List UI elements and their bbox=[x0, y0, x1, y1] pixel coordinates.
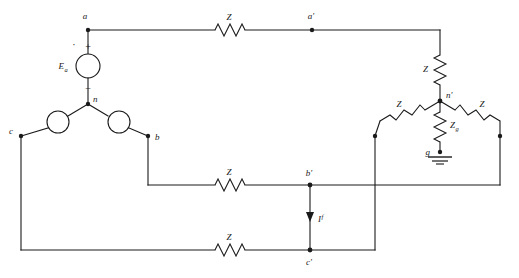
label-node-c: c bbox=[9, 126, 13, 136]
label-node-b-prime: b' bbox=[306, 168, 314, 178]
phase-b-transmission-line bbox=[148, 136, 500, 191]
label-node-g: g bbox=[426, 147, 431, 157]
wye-source-branches bbox=[21, 104, 148, 136]
node-dot-load-b-terminal bbox=[498, 134, 502, 138]
label-source-ea-subscript: a bbox=[64, 66, 67, 73]
wire-source-b-to-node-b bbox=[129, 128, 148, 136]
node-dot-c bbox=[19, 134, 23, 138]
wire-source-c-to-node-c bbox=[21, 128, 48, 136]
label-impedance-line-a: Z bbox=[226, 12, 232, 22]
resistor-grounding-zg bbox=[434, 112, 446, 142]
grounding-impedance-branch bbox=[428, 101, 452, 164]
polarity-dot-icon: · bbox=[72, 39, 75, 50]
label-impedance-load-b: Z bbox=[479, 99, 485, 109]
voltage-source-ec-symbol bbox=[47, 111, 69, 133]
label-node-a: a bbox=[83, 11, 88, 21]
node-dot-b bbox=[146, 134, 150, 138]
label-source-ea: Ea bbox=[57, 61, 67, 73]
node-dot-a-prime bbox=[310, 28, 314, 32]
label-source-plus: + bbox=[85, 41, 91, 52]
phase-a-transmission-line bbox=[88, 24, 440, 36]
label-impedance-line-c: Z bbox=[226, 232, 232, 242]
resistor-load-a bbox=[434, 55, 446, 85]
label-source-minus: − bbox=[85, 83, 91, 94]
wire-load-c-to-terminal bbox=[375, 121, 380, 136]
node-dot-g bbox=[438, 150, 442, 154]
label-node-n-prime: n' bbox=[446, 90, 454, 100]
node-dot-load-c-terminal bbox=[373, 134, 377, 138]
voltage-source-eb-symbol bbox=[108, 111, 130, 133]
circuit-diagram-figure: a a' n c b n' g b' c' Ea + − · Z Z Z Z Z… bbox=[0, 0, 519, 278]
wire-n-to-source-b bbox=[88, 104, 108, 116]
resistor-line-c bbox=[215, 244, 245, 256]
label-node-c-prime: c' bbox=[306, 257, 313, 267]
resistor-load-c bbox=[380, 105, 425, 121]
load-phase-a-branch bbox=[434, 30, 446, 101]
label-impedance-zg: Zg bbox=[450, 120, 460, 132]
resistor-line-b bbox=[215, 179, 245, 191]
label-impedance-zg-subscript: g bbox=[456, 125, 460, 132]
phase-c-transmission-line bbox=[21, 136, 375, 256]
node-dot-b-prime bbox=[308, 183, 313, 188]
node-dot-c-prime bbox=[308, 248, 313, 253]
label-source-ea-main: E bbox=[57, 61, 64, 71]
label-impedance-load-c: Z bbox=[396, 99, 402, 109]
fault-current-arrow-icon bbox=[306, 212, 314, 222]
wire-n-to-source-c bbox=[68, 104, 88, 116]
label-fault-current-superscript: f bbox=[322, 213, 325, 220]
label-node-b: b bbox=[155, 132, 160, 142]
wire-nprime-to-load-c bbox=[425, 101, 440, 110]
fault-branch bbox=[306, 185, 314, 250]
label-impedance-line-b: Z bbox=[226, 167, 232, 177]
wire-nprime-to-load-b bbox=[440, 101, 455, 110]
voltage-source-ea-symbol bbox=[76, 54, 100, 78]
resistor-load-b bbox=[455, 105, 500, 121]
node-dot-n bbox=[86, 102, 90, 106]
label-fault-current: If bbox=[317, 213, 325, 225]
label-node-a-prime: a' bbox=[308, 11, 316, 21]
label-impedance-load-a: Z bbox=[423, 64, 429, 74]
node-dot-a bbox=[86, 28, 90, 32]
node-dot-n-prime bbox=[438, 99, 443, 104]
resistor-line-a bbox=[215, 24, 245, 36]
label-node-n: n bbox=[93, 94, 98, 104]
circuit-schematic-canvas: a a' n c b n' g b' c' Ea + − · Z Z Z Z Z… bbox=[0, 0, 519, 278]
